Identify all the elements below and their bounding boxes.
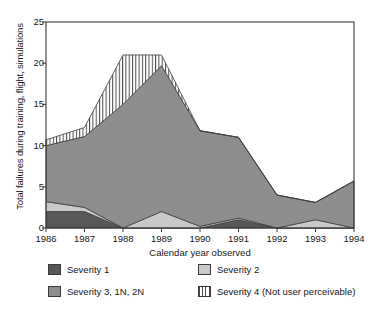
chart-legend: Severity 1 Severity 2 Severity 3, 1N, 2N…	[48, 264, 348, 308]
legend-item-severity-3[interactable]: Severity 3, 1N, 2N	[48, 286, 144, 297]
severity-4-swatch	[198, 286, 211, 297]
legend-label-severity-3: Severity 3, 1N, 2N	[67, 286, 144, 297]
severity-1-swatch	[48, 264, 61, 275]
x-tick-label-1990: 1990	[183, 234, 217, 244]
severity-3-swatch	[48, 286, 61, 297]
x-tick-label-1994: 1994	[337, 234, 369, 244]
legend-label-severity-1: Severity 1	[67, 264, 109, 275]
legend-item-severity-1[interactable]: Severity 1	[48, 264, 109, 275]
x-tick-label-1987: 1987	[68, 234, 102, 244]
x-tick-label-1988: 1988	[106, 234, 140, 244]
x-tick-label-1991: 1991	[222, 234, 256, 244]
x-tick-label-1989: 1989	[145, 234, 179, 244]
x-axis-ticks	[46, 228, 354, 232]
y-axis-ticks	[42, 22, 46, 228]
legend-item-severity-4[interactable]: Severity 4 (Not user perceivable)	[198, 286, 355, 297]
x-tick-label-1986: 1986	[29, 234, 63, 244]
legend-label-severity-4: Severity 4 (Not user perceivable)	[217, 286, 355, 297]
series-layer	[46, 55, 354, 228]
severity-2-swatch	[198, 264, 211, 275]
x-tick-label-1992: 1992	[260, 234, 294, 244]
legend-item-severity-2[interactable]: Severity 2	[198, 264, 259, 275]
legend-label-severity-2: Severity 2	[217, 264, 259, 275]
x-tick-label-1993: 1993	[299, 234, 333, 244]
area-series-3	[46, 66, 354, 228]
x-axis-label: Calendar year observed	[46, 247, 354, 258]
